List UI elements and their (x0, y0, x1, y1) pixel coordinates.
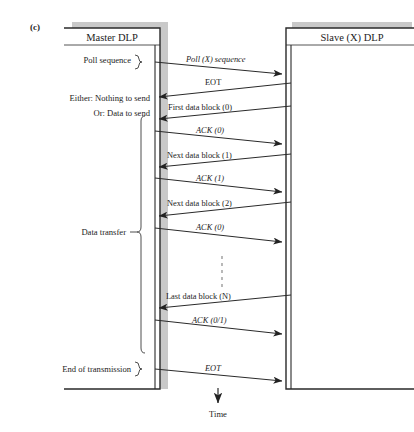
slave-dlp-title: Slave (X) DLP (321, 32, 384, 44)
message-label-next-data-block-2: Next data block (2) (167, 199, 232, 208)
message-label-first-data-block: First data block (0) (168, 103, 232, 112)
message-label-eot-2: EOT (204, 364, 222, 373)
annotation-or-data-to-send: Or: Data to send (93, 108, 150, 118)
message-label-ack-0-a: ACK (0) (195, 126, 224, 135)
master-dlp-title: Master DLP (86, 32, 138, 43)
message-label-last-data-block-n: Last data block (N) (166, 292, 231, 301)
part-label: (c) (30, 22, 40, 32)
sequence-diagram: (c) Master DLP Slave (X) DLP Poll sequen… (0, 0, 414, 432)
annotation-either-nothing-to-send: Either: Nothing to send (70, 93, 151, 103)
message-label-eot-1: EOT (205, 78, 221, 87)
time-axis-label: Time (209, 409, 227, 419)
message-label-ack-0-1: ACK (0/1) (191, 316, 227, 325)
message-label-ack-1: ACK (1) (195, 174, 224, 183)
annotation-poll-sequence: Poll sequence (84, 55, 132, 65)
annotation-data-transfer: Data transfer (81, 227, 126, 237)
annotation-end-of-transmission: End of transmission (62, 364, 131, 374)
figure-panel-c: (c) Master DLP Slave (X) DLP Poll sequen… (0, 0, 414, 432)
arrow-eot-1 (159, 83, 291, 97)
message-label-next-data-block-1: Next data block (1) (167, 151, 232, 160)
master-dlp-box (64, 28, 160, 389)
slave-dlp-box (286, 28, 414, 389)
message-label-ack-0-b: ACK (0) (195, 223, 224, 232)
message-label-poll-x-sequence: Poll (X) sequence (185, 55, 246, 64)
